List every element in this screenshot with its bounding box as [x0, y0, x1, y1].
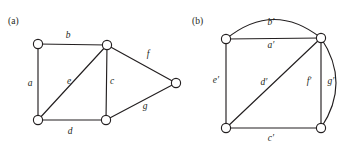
vertex-a-top-middle [102, 40, 111, 49]
edge-c-prime-label: c′ [268, 133, 275, 143]
edges-layer [38, 19, 336, 128]
edge-e [38, 45, 107, 120]
edge-d-label: d [68, 126, 73, 136]
vertex-b-top-right [316, 33, 325, 42]
edge-b-label: b [66, 30, 71, 40]
figure-root: abedcfg(a)b′a′e′d′c′f′g′(b) [0, 0, 362, 149]
edge-f-label: f [147, 49, 151, 59]
graph-figure-canvas: abedcfg(a)b′a′e′d′c′f′g′(b) [0, 0, 362, 149]
edge-g [106, 83, 176, 120]
edge-a-label: a [28, 78, 33, 88]
edge-e-prime-label: e′ [213, 75, 220, 85]
labels-layer: abedcfg(a)b′a′e′d′c′f′g′(b) [8, 16, 335, 143]
edge-f-prime-label: f′ [307, 76, 313, 86]
panel-a-caption: (a) [8, 16, 19, 27]
edge-f [107, 45, 176, 83]
vertex-b-top-left [221, 34, 230, 43]
edge-a-prime-label: a′ [268, 40, 276, 50]
vertices-layer [33, 33, 325, 132]
edge-b [38, 44, 107, 45]
edge-g-prime-label: g′ [328, 76, 336, 86]
vertex-a-bottom-left [33, 115, 42, 124]
vertex-a-top-left [33, 39, 42, 48]
edge-g-label: g [143, 101, 148, 111]
edge-b-prime-label: b′ [268, 17, 276, 27]
vertex-a-right [171, 78, 180, 87]
edge-a-prime [226, 38, 321, 39]
vertex-b-bottom-right [316, 123, 325, 132]
vertex-a-bottom-middle [101, 115, 110, 124]
edge-d-prime-label: d′ [261, 77, 269, 87]
edge-c-label: c [110, 76, 115, 86]
panel-b-caption: (b) [192, 16, 203, 27]
vertex-b-bottom-left [221, 123, 230, 132]
edge-e-label: e [67, 76, 71, 86]
edge-c [106, 45, 107, 120]
